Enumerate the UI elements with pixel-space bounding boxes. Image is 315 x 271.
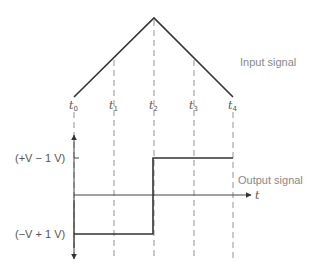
time-axis-label: t: [255, 189, 260, 202]
time-marker-t4: t4: [228, 99, 237, 113]
time-marker-t3: t3: [189, 99, 198, 113]
high-level-label: (+V − 1 V): [15, 152, 65, 164]
input-signal-waveform: [74, 18, 233, 97]
input-signal-label: Input signal: [240, 56, 296, 68]
time-marker-t1: t1: [109, 99, 118, 113]
time-marker-t0: t0: [69, 99, 78, 113]
diagram-svg: t0 t1 t2 t3 t4 Input signal t (+V − 1 V)…: [0, 0, 315, 271]
output-signal-waveform: [74, 158, 233, 234]
time-marker-t2: t2: [149, 99, 158, 113]
time-markers: t0 t1 t2 t3 t4: [69, 99, 237, 113]
comparator-diagram: t0 t1 t2 t3 t4 Input signal t (+V − 1 V)…: [0, 0, 315, 271]
low-level-label: (−V + 1 V): [15, 228, 65, 240]
output-signal-label: Output signal: [238, 174, 303, 186]
